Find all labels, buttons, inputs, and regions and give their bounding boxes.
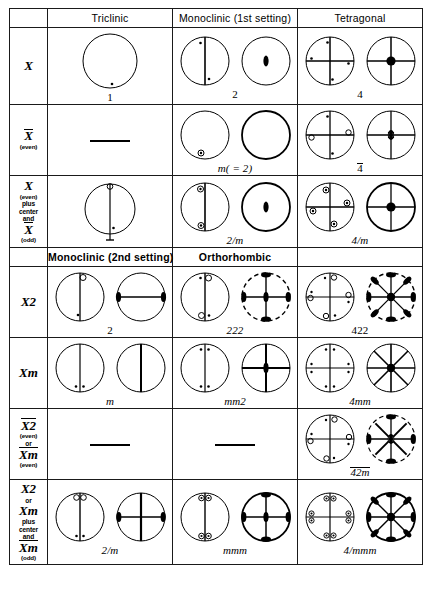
cell-triclinic-none-1 [48,105,173,176]
pg-name-4m: 4/m [352,235,369,246]
stereo-pair-4mm [302,340,419,396]
row-label-xmb-symbol: Xm [11,504,46,519]
stereogram-symmetry-4 [363,33,419,89]
row-label-xm: Xm [10,338,48,409]
header-row-2: Monoclinic (2nd setting) Orthorhombic [10,248,423,267]
stereogram-poles-4m [302,179,358,235]
row-label-xbarm-even-note: (even) [11,462,46,469]
header-orthorhombic: Orthorhombic [173,248,298,267]
pg-name-1: 1 [107,92,113,103]
cell-monoclinic2-2m: 2/m [48,480,173,565]
stereo-pair-m2-2m [52,489,169,545]
cell-monoclinic1-m: m( = 2) [173,105,298,176]
stereogram-symmetry-m2-m [113,340,169,396]
pg-name-m2-m: m [106,396,114,407]
stereogram-poles-m [177,107,233,163]
row-label-x2-symbol: X2 [11,295,46,310]
stereo-pair-422 [302,269,419,325]
row-label-xbarm-odd-symbol: Xm [11,541,46,556]
pg-name-4mmm: 4/mmm [344,545,377,556]
stereogram-poles-2 [177,33,233,89]
stereogram-symmetry-42m [363,411,419,467]
pg-name-222: 222 [227,325,244,336]
row-label-xbar-even: X (even) [10,105,48,176]
cell-ortho-222: 222 [173,267,298,338]
row-label-xbar2-even-note: (even) [11,433,46,440]
stereogram-symmetry-222 [238,269,294,325]
stereogram-poles-1 [79,30,141,92]
stereo-pair-1bar [75,178,145,246]
stereogram-symmetry-422 [363,269,419,325]
stereogram-symmetry-2 [238,33,294,89]
stereogram-poles-2m [177,179,233,235]
pg-name-2: 2 [232,89,238,100]
header-triclinic: Triclinic [48,9,173,28]
row-label-x3-second: X [11,223,46,238]
stereo-pair-mmm [177,489,294,545]
header-tetragonal: Tetragonal [298,9,423,28]
row-xbar-even: X (even) m( = 2) [10,105,423,176]
row-label-x2b-plus: plus [11,518,46,525]
row-x-even-plus-center: X (even) plus center and X (odd) [10,176,423,248]
pg-name-4: 4 [357,89,363,100]
row-x2: X2 2 [10,267,423,338]
stereogram-symmetry-m [238,107,294,163]
row-label-x-symbol: X [11,59,46,74]
pg-name-m2-2m: 2/m [102,545,119,556]
row-label-x2b-center: center [11,526,46,533]
stereogram-symmetry-4mm [363,340,419,396]
cell-ortho-mmm: mmm [173,480,298,565]
stereogram-poles-m2-2 [52,269,108,325]
stereo-pair-2 [177,33,294,89]
empty-dash-2 [90,444,130,446]
row-xbar2-even: X2 (even) or Xm (even) [10,409,423,480]
pg-name-4bar: 4 [357,163,363,174]
cell-tetragonal-4mm: 4mm [298,338,423,409]
row-label-xbar2-symbol: X2 [11,419,46,434]
cell-triclinic-1bar [48,176,173,248]
cell-monoclinic2-2: 2 [48,267,173,338]
row-label-x3-symbol: X [11,179,46,194]
stereogram-poles-m2-2m [52,489,108,545]
pg-name-m: m( = 2) [218,163,252,174]
stereogram-poles-4bar [302,107,358,163]
row-label-x3-plus: plus [11,200,46,207]
pg-name-422: 422 [352,325,369,336]
header-monoclinic-1st: Monoclinic (1st setting) [173,9,298,28]
row-label-xbar2-even: X2 (even) or Xm (even) [10,409,48,480]
stereogram-symmetry-m2-2 [113,269,169,325]
row-label-xm-symbol: Xm [11,366,46,381]
header-corner-blank-2 [10,248,48,267]
stereogram-symmetry-mm2 [238,340,294,396]
stereogram-poles-222 [177,269,233,325]
row-label-x-even-center: X (even) plus center and X (odd) [10,176,48,248]
cell-tetragonal-42m: 42m [298,409,423,480]
stereogram-symmetry-4m [363,179,419,235]
stereo-pair-m [177,107,294,163]
row-x2-xm-plus-center: X2 or Xm plus center and Xm (odd) [10,480,423,565]
row-label-x3-even: (even) [11,194,46,201]
point-group-table: Triclinic Monoclinic (1st setting) Tetra… [9,8,423,565]
stereogram-poles-4mmm [302,489,358,545]
stereo-pair-4mmm [302,489,419,545]
cell-ortho-mm2: mm2 [173,338,298,409]
stereogram-symmetry-4mmm [363,489,419,545]
pg-name-2m: 2/m [227,235,244,246]
stereogram-poles-4mm [302,340,358,396]
stereo-pair-mm2 [177,340,294,396]
stereogram-poles-422 [302,269,358,325]
row-label-x3-center: center [11,208,46,215]
pg-name-42m: 42m [350,467,369,478]
stereo-pair-m2-m [52,340,169,396]
cell-tetragonal-422: 422 [298,267,423,338]
row-label-x2-xm-center: X2 or Xm plus center and Xm (odd) [10,480,48,565]
row-label-xbarm-symbol: Xm [11,448,46,463]
stereo-pair-4 [302,33,419,89]
cell-monoclinic1-2: 2 [173,28,298,105]
row-label-xbar-note: (even) [11,144,46,151]
cell-tetragonal-4mmm: 4/mmm [298,480,423,565]
stereogram-poles-m2-m [52,340,108,396]
header-monoclinic-2nd: Monoclinic (2nd setting) [48,248,173,267]
stereogram-symmetry-mmm [238,489,294,545]
header-corner-blank [10,9,48,28]
